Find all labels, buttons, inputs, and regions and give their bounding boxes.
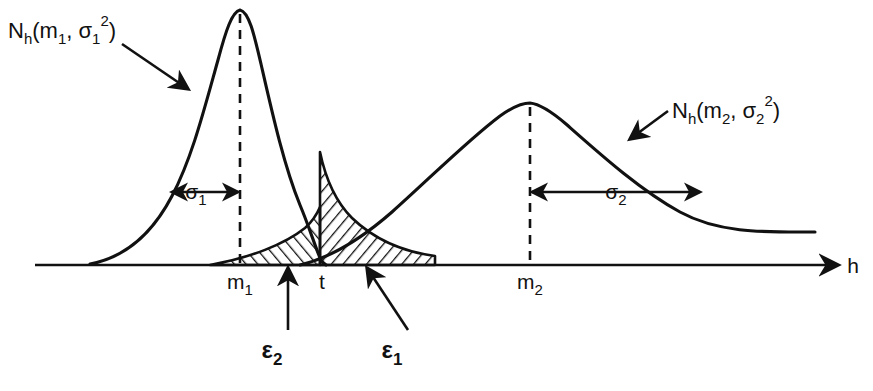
distribution-overlap-diagram: σ1 σ2 Nh(m1, σ12) Nh(m2, σ22) m1 t m2 h xyxy=(0,0,873,391)
curve-distribution-1 xyxy=(90,10,326,265)
threshold-label-t: t xyxy=(319,270,325,293)
error-region-eps1 xyxy=(320,152,435,265)
mean-label-m1: m1 xyxy=(227,270,253,298)
sigma2-label: σ2 xyxy=(605,180,626,208)
curve1-leader-arrow xyxy=(122,44,188,89)
eps2-label: ε2 xyxy=(262,336,283,369)
sigma2-measure: σ2 xyxy=(532,180,700,208)
figure-root: σ1 σ2 Nh(m1, σ12) Nh(m2, σ22) m1 t m2 h xyxy=(0,0,873,391)
eps1-leader-arrow xyxy=(367,268,408,330)
eps1-label: ε1 xyxy=(382,336,403,369)
axis-variable-label-h: h xyxy=(847,254,859,277)
curve2-formula-label: Nh(m2, σ22) xyxy=(672,92,780,127)
sigma1-measure: σ1 xyxy=(172,180,238,208)
curve2-leader-arrow xyxy=(630,111,668,139)
mean-label-m2: m2 xyxy=(517,270,543,298)
sigma1-label: σ1 xyxy=(185,180,206,208)
curve1-formula-label: Nh(m1, σ12) xyxy=(8,12,116,47)
